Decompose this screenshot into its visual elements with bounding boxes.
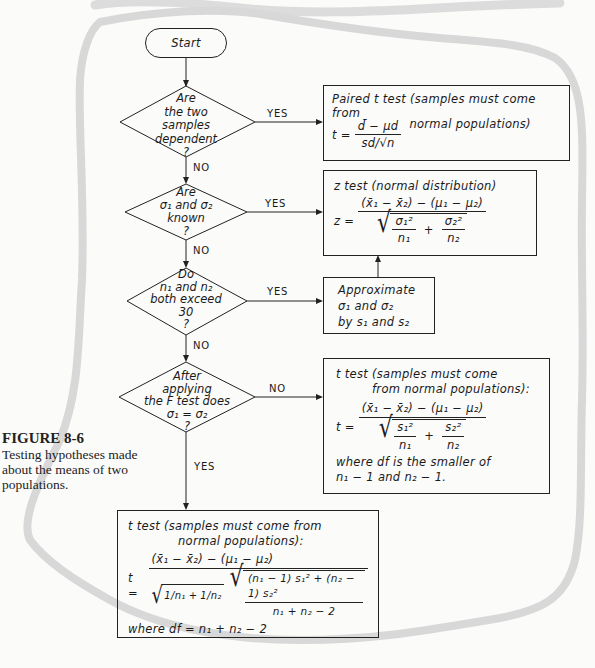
- z-test-title: z test (normal distribution): [334, 179, 526, 193]
- variance-term-2: s₂² n₂: [442, 420, 464, 453]
- yes-label-2: YES: [265, 198, 286, 209]
- z-test-box: z test (normal distribution) z = (x̄₁ − …: [323, 170, 537, 256]
- no-label-1: NO: [193, 162, 210, 173]
- arrowhead: [375, 255, 381, 262]
- term-denominator: n₁: [395, 230, 414, 245]
- approximate-box: Approximate σ₁ and σ₂ by s₁ and s₂: [323, 277, 435, 334]
- decision-line: the F test does: [126, 395, 248, 408]
- approximate-line: Approximate: [338, 282, 420, 298]
- paired-t-lhs: t =: [332, 128, 351, 142]
- decision-line: ?: [136, 225, 236, 238]
- arrowhead: [183, 503, 189, 510]
- decision-3-text: Do n₁ and n₂ both exceed 30 ?: [131, 268, 241, 331]
- decision-line: Do: [131, 268, 241, 281]
- yes-label-3: YES: [267, 286, 288, 297]
- yes-label-1: YES: [267, 108, 288, 119]
- variance-term-2: σ₂² n₂: [442, 214, 465, 245]
- t-pooled-df-note: where df = n₁ + n₂ − 2: [128, 622, 368, 637]
- decision-1-text: Are the two samples dependent ?: [136, 92, 236, 160]
- plus-sign: +: [424, 429, 434, 444]
- paired-t-title: Paired t test (samples must come from: [332, 92, 561, 120]
- arrowhead: [316, 394, 323, 400]
- decision-line: both exceed: [131, 293, 241, 306]
- paired-t-numerator: d̄ − μd: [355, 119, 402, 135]
- t-unequal-title2: from normal populations):: [336, 382, 537, 397]
- yes-label-4: YES: [194, 461, 215, 472]
- figure-label: FIGURE 8-6: [2, 430, 140, 447]
- term-denominator: n₂: [444, 230, 463, 245]
- no-label-2: NO: [193, 245, 210, 256]
- start-label: Start: [171, 36, 201, 50]
- decision-line: ?: [131, 318, 241, 331]
- decision-line: Are: [136, 92, 236, 106]
- decision-4-text: After applying the F test does σ₁ = σ₂ ?: [126, 370, 248, 433]
- plus-sign: +: [424, 223, 434, 237]
- arrowhead: [316, 119, 323, 125]
- inverse-n1: 1/n₁: [164, 588, 185, 603]
- t-unequal-lhs: t =: [336, 420, 355, 435]
- t-pooled-numerator: (x̄₁ − x̄₂) − (μ₁ − μ₂): [149, 552, 277, 568]
- decision-line: the two: [136, 106, 236, 120]
- t-unequal-denominator: √ s₁² n₁ + s₂² n₂: [376, 418, 470, 453]
- term-denominator: n₂: [444, 437, 463, 453]
- arrowhead: [316, 298, 323, 304]
- term-numerator: σ₂²: [442, 214, 465, 230]
- term-numerator: σ₁²: [392, 214, 415, 230]
- approximate-line: σ₁ and σ₂: [338, 298, 420, 314]
- sqrt-icon: √: [230, 563, 244, 627]
- figure-caption-text: Testing hypotheses made about the means …: [2, 447, 140, 492]
- t-test-unequal-box: t test (samples must come from normal po…: [323, 358, 550, 494]
- term-denominator: n₁: [396, 437, 415, 453]
- decision-line: ?: [126, 420, 248, 433]
- decision-line: dependent: [136, 133, 236, 147]
- t-unequal-df-values: n₁ − 1 and n₂ − 1.: [336, 470, 537, 485]
- t-pooled-title: t test (samples must come from: [128, 519, 368, 534]
- sqrt-icon: √: [152, 580, 164, 609]
- t-pooled-denominator: √ 1/n₁ + 1/n₂ √ (n₁ − 1) s₁² + (n₂ − 1) …: [149, 568, 368, 619]
- paired-t-test-box: Paired t test (samples must come from t …: [323, 85, 570, 161]
- inverse-n2: 1/n₂: [200, 588, 221, 603]
- paired-t-fraction: d̄ − μd sd/√n: [355, 119, 402, 150]
- plus-sign: +: [189, 588, 198, 603]
- pooled-variance-fraction: (n₁ − 1) s₁² + (n₂ − 1) s₂² n₁ + n₂ − 2: [245, 571, 363, 619]
- t-pooled-fraction: (x̄₁ − x̄₂) − (μ₁ − μ₂) √ 1/n₁ + 1/n₂ √ …: [149, 552, 368, 619]
- no-label-4: NO: [269, 383, 286, 394]
- paired-t-title2: normal populations): [409, 117, 531, 131]
- t-unequal-df-note: where df is the smaller of: [336, 455, 537, 470]
- z-test-lhs: z =: [334, 214, 354, 228]
- sqrt-icon: √: [379, 414, 393, 458]
- decision-2-text: Are σ₁ and σ₂ known ?: [136, 186, 236, 238]
- decision-line: After: [126, 370, 248, 383]
- term-numerator: s₂²: [442, 420, 464, 437]
- no-label-3: NO: [193, 340, 210, 351]
- variance-term-1: s₁² n₁: [394, 420, 416, 453]
- pooled-numerator: (n₁ − 1) s₁² + (n₂ − 1) s₂²: [245, 571, 363, 603]
- z-test-denominator: √ σ₁² n₁ + σ₂² n₂: [374, 212, 470, 245]
- decision-line: samples: [136, 119, 236, 133]
- approximate-line: by s₁ and s₂: [338, 314, 420, 330]
- sqrt-icon: √: [377, 208, 391, 250]
- arrowhead: [183, 355, 189, 362]
- pooled-variance-sqrt: √ (n₁ − 1) s₁² + (n₂ − 1) s₂² n₁ + n₂ − …: [230, 570, 365, 619]
- z-test-fraction: (x̄₁ − x̄₂) − (μ₁ − μ₂) √ σ₁² n₁ + σ₂² n…: [358, 196, 486, 245]
- t-unequal-title: t test (samples must come: [336, 367, 537, 382]
- pooled-denominator: n₁ + n₂ − 2: [270, 603, 339, 619]
- decision-line: ?: [136, 146, 236, 160]
- figure-caption: FIGURE 8-6 Testing hypotheses made about…: [2, 430, 140, 492]
- inverse-n-sqrt: √ 1/n₁ + 1/n₂: [152, 584, 224, 606]
- arrowhead: [316, 209, 323, 215]
- t-test-pooled-box: t test (samples must come from normal po…: [117, 510, 379, 638]
- arrowhead: [183, 177, 189, 184]
- paired-t-denominator: sd/√n: [358, 135, 397, 150]
- t-pooled-lhs: t =: [128, 571, 145, 601]
- variance-term-1: σ₁² n₁: [392, 214, 415, 245]
- term-numerator: s₁²: [394, 420, 416, 437]
- arrowhead: [183, 80, 189, 87]
- start-terminal: Start: [145, 28, 227, 58]
- t-pooled-title2: normal populations):: [128, 534, 368, 549]
- t-unequal-fraction: (x̄₁ − x̄₂) − (μ₁ − μ₂) √ s₁² n₁ + s₂² n…: [359, 401, 487, 453]
